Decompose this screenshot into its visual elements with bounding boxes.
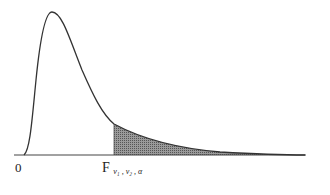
f-distribution-diagram: 0 F ν₁ , ν₂ , α bbox=[0, 0, 330, 195]
critical-label-subscript: ν₁ , ν₂ , α bbox=[113, 167, 143, 176]
critical-label-main: F bbox=[102, 160, 110, 175]
origin-label: 0 bbox=[15, 160, 22, 175]
density-curve bbox=[24, 12, 305, 155]
critical-value-label: F ν₁ , ν₂ , α bbox=[102, 160, 143, 176]
